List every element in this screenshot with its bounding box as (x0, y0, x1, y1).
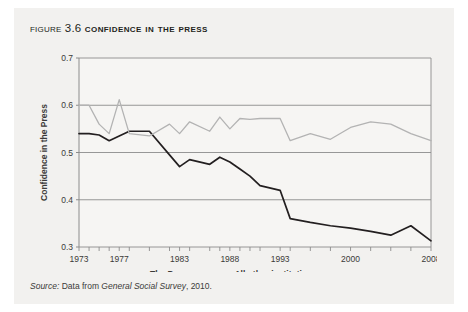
x-tick-label: 1977 (110, 254, 129, 264)
y-tick-label: 0.7 (61, 53, 73, 63)
y-tick-label: 0.3 (61, 242, 73, 252)
source-text-after: , 2010. (186, 281, 212, 291)
figure-container: Figure 3.6 Confidence in the Press 0.30.… (0, 0, 468, 312)
x-tick-label: 1983 (170, 254, 189, 264)
x-tick-label: 1988 (220, 254, 239, 264)
x-tick-label: 2008 (422, 254, 437, 264)
figure-label-word: Figure (30, 22, 61, 34)
figure-title-text: Confidence in the Press (85, 22, 208, 34)
chart-area: 0.30.40.50.60.7Confidence in the Press19… (33, 44, 437, 272)
y-tick-label: 0.5 (61, 148, 73, 158)
source-note: Source: Data from General Social Survey,… (30, 281, 212, 291)
legend-label: All other institutions (234, 269, 317, 272)
y-tick-label: 0.6 (61, 100, 73, 110)
legend-label: The Press (150, 269, 191, 272)
figure-title: Figure 3.6 Confidence in the Press (30, 22, 208, 34)
figure-number: 3.6 (65, 22, 82, 34)
source-text-before: Data from (59, 281, 101, 291)
line-chart: 0.30.40.50.60.7Confidence in the Press19… (33, 44, 437, 272)
x-tick-label: 2000 (341, 254, 360, 264)
y-axis-title: Confidence in the Press (39, 104, 49, 201)
source-work-title: General Social Survey (101, 281, 186, 291)
x-tick-label: 1973 (70, 254, 89, 264)
x-tick-label: 1993 (271, 254, 290, 264)
source-label: Source: (30, 281, 59, 291)
y-tick-label: 0.4 (61, 195, 73, 205)
